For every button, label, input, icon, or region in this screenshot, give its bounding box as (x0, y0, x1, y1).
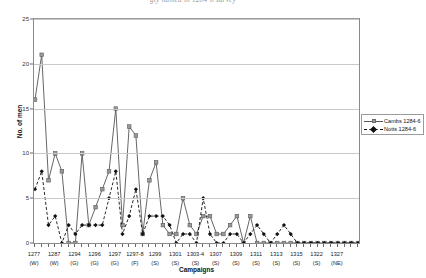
x-tick-mark (108, 244, 109, 247)
x-tick-mark (310, 244, 311, 247)
y-tick-label-0: 0 (26, 240, 29, 246)
x-tick-mark (344, 244, 345, 247)
x-tick-mark (148, 244, 149, 247)
y-tick-label-10: 10 (22, 150, 29, 156)
x-tick-label-1327: 1327(NE) (322, 250, 352, 267)
x-tick-mark (270, 244, 271, 247)
x-tick-mark (61, 244, 62, 247)
x-tick-mark (229, 244, 230, 247)
y-tick-label-25: 25 (22, 16, 29, 22)
gridline-10 (34, 153, 359, 154)
x-tick-mark (169, 244, 170, 247)
y-tick-label-15: 15 (22, 106, 29, 112)
legend-item-1: Cambs 1284-6 (364, 117, 421, 125)
x-tick-year: 1327 (322, 250, 352, 259)
x-tick-mark (357, 244, 358, 247)
x-tick-mark (54, 244, 55, 247)
x-tick-mark (101, 244, 102, 247)
x-tick-mark (41, 244, 42, 247)
legend-marker-diamond-icon (370, 125, 377, 132)
x-tick-mark (182, 244, 183, 247)
x-tick-mark (115, 244, 116, 247)
y-axis-label: No. of men (16, 87, 23, 157)
x-tick-mark (155, 244, 156, 247)
x-tick-mark (142, 244, 143, 247)
legend-label: Cambs 1284-6 (383, 118, 421, 124)
gridline-15 (34, 109, 359, 110)
x-tick-mark (81, 244, 82, 247)
x-tick-mark (276, 244, 277, 247)
x-tick-mark (296, 244, 297, 247)
x-tick-mark (337, 244, 338, 247)
x-tick-mark (209, 244, 210, 247)
x-tick-mark (175, 244, 176, 247)
x-tick-mark (128, 244, 129, 247)
plot-area (33, 18, 360, 244)
x-tick-mark (256, 244, 257, 247)
x-axis-label: Campaigns (33, 266, 360, 273)
x-tick-mark (249, 244, 250, 247)
x-tick-mark (323, 244, 324, 247)
x-tick-mark (330, 244, 331, 247)
x-tick-mark (222, 244, 223, 247)
x-tick-mark (290, 244, 291, 247)
x-tick-mark (162, 244, 163, 247)
x-tick-mark (68, 244, 69, 247)
x-tick-mark (34, 244, 35, 247)
x-tick-mark (216, 244, 217, 247)
chart-legend: Cambs 1284-6Notts 1284-6 (361, 114, 424, 135)
legend-key-square-icon (364, 117, 383, 125)
legend-marker-square-icon (372, 119, 376, 123)
gridline-25 (34, 19, 359, 20)
x-tick-mark (263, 244, 264, 247)
x-tick-mark (74, 244, 75, 247)
x-tick-mark (122, 244, 123, 247)
x-tick-mark (196, 244, 197, 247)
gridline-5 (34, 198, 359, 199)
x-tick-mark (283, 244, 284, 247)
x-tick-mark (236, 244, 237, 247)
x-tick-mark (189, 244, 190, 247)
y-tick-label-20: 20 (22, 61, 29, 67)
gridline-20 (34, 64, 359, 65)
x-tick-mark (95, 244, 96, 247)
x-tick-mark (243, 244, 244, 247)
x-tick-mark (317, 244, 318, 247)
x-tick-mark (303, 244, 304, 247)
x-tick-mark (88, 244, 89, 247)
gridlines (34, 19, 359, 243)
x-tick-mark (202, 244, 203, 247)
legend-key-diamond-icon (364, 125, 383, 133)
x-tick-mark (350, 244, 351, 247)
legend-label: Notts 1284-6 (383, 126, 416, 132)
x-tick-mark (48, 244, 49, 247)
y-tick-label-5: 5 (26, 195, 29, 201)
legend-item-2: Notts 1284-6 (364, 125, 421, 133)
x-tick-mark (135, 244, 136, 247)
chart-figure: 0510152025 No. of men 1277(W)1287(W)1294… (0, 0, 426, 278)
